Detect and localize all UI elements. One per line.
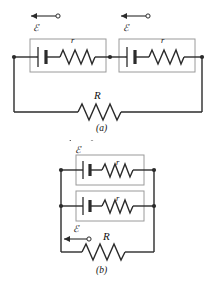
emf-arrow-b1 — [65, 140, 94, 141]
cell-box-a1 — [30, 39, 106, 72]
resistor-b-external-R — [82, 244, 125, 260]
node-b-left-top — [59, 168, 63, 172]
node-b-right-top — [152, 168, 156, 172]
node-a-right — [200, 55, 204, 59]
internal-resistance-label-a2: r — [161, 36, 164, 45]
emf-label-a1: ℰ — [33, 24, 39, 34]
internal-resistance-label-b1: r — [116, 158, 119, 167]
internal-resistance-label-a1: r — [71, 36, 74, 45]
resistor-a2-internal-r — [149, 50, 184, 64]
node-b-left-bottom — [59, 204, 63, 208]
emf-arrow-b2 — [64, 236, 91, 242]
resistor-a-external-R — [78, 104, 121, 120]
circuit-figure: ℰ ℰ r r R (a) — [0, 0, 215, 287]
node-a-middle — [108, 55, 112, 59]
emf-label-b2: ℰ — [73, 225, 79, 235]
external-resistance-label-b: R — [103, 231, 110, 242]
panel-a-graphics — [0, 0, 215, 145]
emf-label-b1: ℰ — [75, 146, 81, 156]
emf-arrow-a2 — [121, 13, 150, 19]
node-a-left — [12, 55, 16, 59]
internal-resistance-label-b2: r — [116, 194, 119, 203]
caption-b: (b) — [96, 266, 107, 276]
emf-arrow-a1 — [31, 13, 60, 19]
node-b-right-bottom — [152, 204, 156, 208]
cell-box-a2 — [119, 39, 195, 72]
emf-label-a2: ℰ — [123, 24, 129, 34]
panel-b-graphics — [0, 140, 215, 287]
resistor-a1-internal-r — [60, 50, 95, 64]
caption-a: (a) — [96, 124, 107, 134]
external-resistance-label-a: R — [94, 90, 101, 101]
